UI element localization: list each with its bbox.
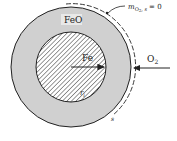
mass-fraction-rhs: = 0 — [149, 3, 162, 11]
surface-label: s — [111, 115, 114, 122]
o2-sub: 2 — [154, 58, 158, 65]
o2-label: O2 — [147, 54, 158, 65]
oxidation-diagram: FeO Fe ri s O2 mO2, s= 0 — [0, 0, 177, 141]
feo-label: FeO — [64, 15, 82, 25]
fe-label: Fe — [82, 53, 93, 63]
o2-symbol: O — [147, 54, 154, 64]
leader-dot — [106, 12, 109, 15]
surface-condition-label: mO2, s= 0 — [128, 3, 162, 13]
surface-condition-leader — [108, 6, 125, 13]
mass-fraction-sub3: , s — [141, 6, 147, 12]
